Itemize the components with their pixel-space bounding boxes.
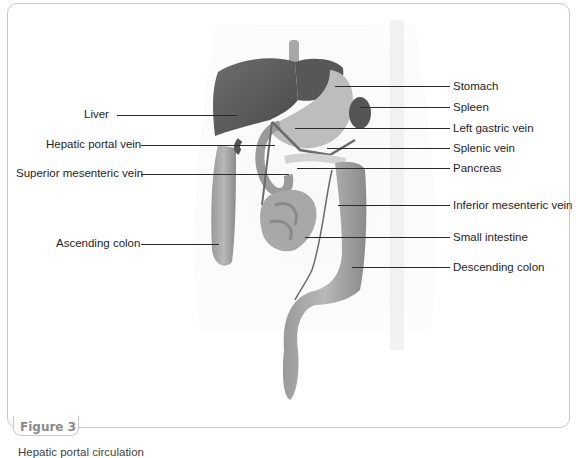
leader-line-splenic-vein xyxy=(327,148,450,149)
pancreas xyxy=(285,157,345,162)
ascending-colon xyxy=(211,145,236,266)
leader-line-liver xyxy=(117,115,237,116)
leader-line-superior-mesenteric-vein xyxy=(141,174,289,175)
figure-number: Figure 3 xyxy=(20,420,76,434)
label-splenic-vein: Splenic vein xyxy=(453,141,515,155)
leader-line-spleen xyxy=(360,107,450,108)
label-pancreas: Pancreas xyxy=(453,161,502,175)
label-ascending-colon: Ascending colon xyxy=(56,236,140,250)
leader-line-left-gastric-vein xyxy=(295,128,450,129)
label-stomach: Stomach xyxy=(453,79,498,93)
leader-line-ascending-colon xyxy=(141,244,219,245)
spleen xyxy=(349,97,371,129)
label-liver: Liver xyxy=(84,107,109,121)
leader-line-pancreas xyxy=(297,168,450,169)
leader-line-descending-colon xyxy=(352,267,450,268)
label-left-gastric-vein: Left gastric vein xyxy=(453,121,534,135)
label-spleen: Spleen xyxy=(453,100,489,114)
label-superior-mesenteric-vein: Superior mesenteric vein xyxy=(16,166,143,180)
label-inferior-mesenteric-vein: Inferior mesenteric vein xyxy=(453,198,573,212)
leader-line-small-intestine xyxy=(305,237,450,238)
figure-caption: Hepatic portal circulation xyxy=(18,446,144,458)
label-descending-colon: Descending colon xyxy=(453,260,544,274)
leader-line-hepatic-portal-vein xyxy=(141,145,275,146)
leader-line-inferior-mesenteric-vein xyxy=(338,205,450,206)
label-hepatic-portal-vein: Hepatic portal vein xyxy=(46,137,141,151)
leader-line-stomach xyxy=(335,86,450,87)
label-small-intestine: Small intestine xyxy=(453,230,528,244)
